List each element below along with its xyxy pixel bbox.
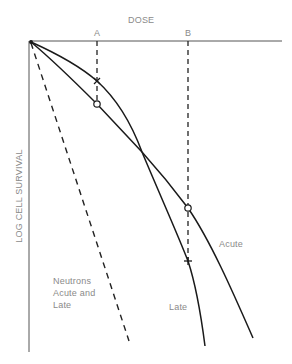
cell-survival-diagram: DOSE A B LOG CELL SURVIVAL Acute Late Ne… xyxy=(0,0,292,364)
neutrons-curve-label: Neutrons Acute and Late xyxy=(53,275,95,311)
origin-point xyxy=(29,40,33,44)
open-circle-marker-b xyxy=(185,205,191,211)
dose-b-label: B xyxy=(185,28,191,38)
dose-a-label: A xyxy=(94,28,100,38)
diagram-canvas xyxy=(0,0,292,364)
neutrons-label-line-1: Neutrons xyxy=(53,275,95,287)
late-curve-label: Late xyxy=(169,302,187,312)
plus-marker-icon xyxy=(184,257,192,265)
x-axis-label: DOSE xyxy=(128,15,154,25)
y-axis-label: LOG CELL SURVIVAL xyxy=(14,149,24,242)
open-circle-marker-a xyxy=(94,101,100,107)
acute-curve-label: Acute xyxy=(219,239,243,249)
neutrons-label-line-2: Acute and xyxy=(53,287,95,299)
neutrons-label-line-3: Late xyxy=(53,299,95,311)
